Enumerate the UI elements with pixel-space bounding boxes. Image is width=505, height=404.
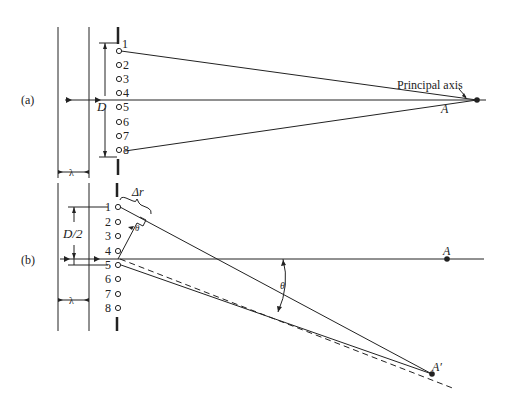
source-a-label-6: 6 xyxy=(123,115,129,129)
source-b-label-6: 6 xyxy=(105,272,111,286)
source-a-label-2: 2 xyxy=(123,58,129,72)
point-A-dot xyxy=(474,97,480,103)
point-A-label: A xyxy=(440,102,449,116)
source-b-4 xyxy=(115,248,120,253)
delta-r-label: Δr xyxy=(131,185,144,199)
delta-r-brace xyxy=(120,197,151,214)
source-a-5 xyxy=(116,104,121,109)
source-b-6 xyxy=(115,276,120,281)
half-d-arrow-top xyxy=(72,207,76,213)
panel-b-label: (b) xyxy=(21,253,35,267)
theta-arrow-top xyxy=(281,260,286,266)
source-a-label-3: 3 xyxy=(123,72,129,86)
ray-5-to-A-prime xyxy=(121,265,432,374)
small-theta-label: θ xyxy=(135,223,140,233)
source-b-1 xyxy=(115,204,120,209)
source-a-2 xyxy=(116,62,121,67)
lambda-label-a: λ xyxy=(69,167,74,178)
incident-arrow-b-2 xyxy=(94,256,100,262)
d-arrow-bottom xyxy=(103,151,107,157)
source-b-label-1: 1 xyxy=(105,200,111,214)
source-b-label-2: 2 xyxy=(105,215,111,229)
source-b-label-4: 4 xyxy=(105,244,111,258)
source-a-8 xyxy=(116,147,121,152)
incident-arrow-a-1 xyxy=(66,97,72,103)
half-d-label: D/2 xyxy=(62,226,83,241)
ray-1-to-A-prime xyxy=(120,207,432,374)
diffraction-diagram: (a) λ D 1 2 3 4 5 6 7 8 Principal axis A… xyxy=(0,0,505,404)
panel-b xyxy=(58,183,484,389)
point-A-prime-label: A′ xyxy=(431,360,442,374)
source-a-4 xyxy=(116,90,121,95)
principal-axis-label: Principal axis xyxy=(397,78,463,92)
lambda-label-b: λ xyxy=(69,295,74,306)
lambda-arrow-a-left xyxy=(58,170,63,174)
source-a-label-7: 7 xyxy=(123,129,129,143)
half-d-arrow-bottom xyxy=(72,253,76,259)
source-b-label-7: 7 xyxy=(105,287,111,301)
lambda-arrow-a-right xyxy=(84,170,89,174)
source-a-6 xyxy=(116,119,121,124)
theta-arrow-bottom xyxy=(277,306,282,312)
large-theta-label: θ xyxy=(280,280,285,291)
dashed-center-ray xyxy=(120,259,455,389)
source-a-label-8: 8 xyxy=(123,143,129,157)
panel-a-label: (a) xyxy=(21,93,34,107)
source-b-label-5: 5 xyxy=(105,258,111,272)
source-b-label-3: 3 xyxy=(105,229,111,243)
lambda-arrow-b-left xyxy=(58,298,63,302)
d-label: D xyxy=(96,99,107,114)
source-b-label-8: 8 xyxy=(105,301,111,315)
source-b-2 xyxy=(115,219,120,224)
source-a-3 xyxy=(116,76,121,81)
source-a-label-4: 4 xyxy=(123,86,129,100)
source-b-5 xyxy=(115,262,120,267)
ray-8-to-A xyxy=(125,100,477,151)
source-a-label-5: 5 xyxy=(123,100,129,114)
incident-arrow-b-1 xyxy=(64,256,70,262)
lambda-arrow-b-right xyxy=(84,298,89,302)
source-a-7 xyxy=(116,133,121,138)
source-a-1 xyxy=(116,48,121,53)
ray-1-to-A xyxy=(121,51,477,100)
d-arrow-top xyxy=(103,43,107,49)
source-b-7 xyxy=(115,291,120,296)
source-b-3 xyxy=(115,233,120,238)
source-a-label-1: 1 xyxy=(122,37,128,51)
source-b-8 xyxy=(115,305,120,310)
point-A-label-b: A xyxy=(442,244,451,258)
